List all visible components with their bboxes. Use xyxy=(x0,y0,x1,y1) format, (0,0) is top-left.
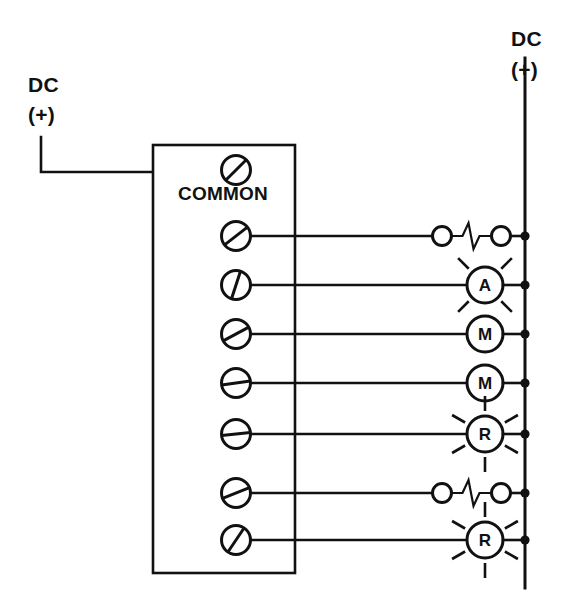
fuse-contact-right-1 xyxy=(492,227,511,246)
device-letter-5: R xyxy=(479,425,491,444)
rail-junction-3 xyxy=(520,329,529,338)
common-terminal[interactable] xyxy=(222,156,251,185)
lamp-ray-7-4 xyxy=(452,521,465,529)
fuse-contact-left-6 xyxy=(433,484,452,503)
motor-starter-m2[interactable]: M xyxy=(467,365,525,401)
device-letter-2: A xyxy=(479,276,491,295)
lamp-ray-5-6 xyxy=(505,415,518,423)
wiring-diagram-canvas: DC (+) DC (+) COMMON AMMRR xyxy=(0,0,563,601)
right-supply-label-line1: DC xyxy=(511,27,542,50)
common-terminal-label: COMMON xyxy=(178,183,268,204)
motor-starter-m1[interactable]: M xyxy=(467,316,525,352)
lamp-ray-2-1 xyxy=(501,301,512,312)
rail-junction-2 xyxy=(520,280,529,289)
fuse-contact-right-6 xyxy=(492,484,511,503)
lamp-ray-7-6 xyxy=(505,521,518,529)
device-letter-7: R xyxy=(479,531,491,550)
lamp-ray-5-3 xyxy=(452,446,465,454)
rail-junction-4 xyxy=(520,378,529,387)
device-letter-4: M xyxy=(478,374,492,393)
lamp-ray-5-4 xyxy=(452,415,465,423)
screw-terminal-2[interactable] xyxy=(222,271,251,300)
lamp-ray-2-4 xyxy=(501,258,512,269)
fuse-heater-row-1[interactable] xyxy=(433,223,526,249)
device-letter-3: M xyxy=(478,325,492,344)
terminal-block-enclosure xyxy=(153,145,295,573)
lamp-ray-7-1 xyxy=(505,552,518,560)
fuse-element-1 xyxy=(452,223,492,249)
left-supply-label-line2: (+) xyxy=(28,103,55,126)
screw-terminal-7[interactable] xyxy=(222,526,251,555)
lamp-ray-2-3 xyxy=(458,258,469,269)
screw-terminal-4[interactable] xyxy=(222,369,251,398)
left-supply-label-line1: DC xyxy=(28,73,59,96)
fuse-heater-row-6[interactable] xyxy=(433,480,526,506)
lamp-ray-2-2 xyxy=(458,301,469,312)
rail-junction-7 xyxy=(520,535,529,544)
screw-terminal-3[interactable] xyxy=(222,320,251,349)
rail-junction-5 xyxy=(520,429,529,438)
wiring-diagram-svg: DC (+) DC (+) COMMON AMMRR xyxy=(0,0,563,601)
screw-terminal-1[interactable] xyxy=(222,222,251,251)
screw-terminal-6[interactable] xyxy=(222,479,251,508)
lamp-ray-5-1 xyxy=(505,446,518,454)
rail-junction-6 xyxy=(520,488,529,497)
rail-junction-1 xyxy=(520,231,529,240)
fuse-contact-left-1 xyxy=(433,227,452,246)
screw-terminal-5[interactable] xyxy=(222,420,251,449)
lamp-ray-7-3 xyxy=(452,552,465,560)
indicator-lamp-a[interactable]: A xyxy=(458,258,525,312)
